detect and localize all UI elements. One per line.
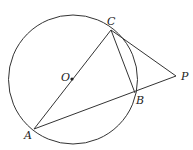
- segment-ap: [34, 76, 176, 129]
- segment-cp: [111, 30, 176, 76]
- label-p: P: [180, 70, 189, 83]
- label-a: A: [23, 129, 32, 142]
- label-b: B: [135, 94, 144, 107]
- center-point-o: [70, 77, 73, 80]
- geometry-diagram: C A O B P: [0, 0, 193, 150]
- label-o: O: [61, 71, 70, 84]
- label-c: C: [107, 15, 116, 28]
